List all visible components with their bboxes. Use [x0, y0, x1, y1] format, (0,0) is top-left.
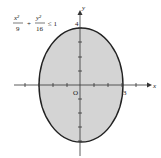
x-axis-arrow-icon	[147, 83, 152, 88]
ellipse-figure: y x O 3 4 x² 9 + y² 16 ≤ 1	[0, 0, 161, 158]
term1-denominator: 9	[16, 25, 20, 33]
plus-sign: +	[27, 20, 31, 28]
term2-numerator: y²	[35, 14, 42, 22]
x-intercept-label: 3	[123, 89, 127, 97]
y-intercept-label: 4	[75, 20, 79, 28]
term2-denominator: 16	[36, 25, 44, 33]
inequality-label: x² 9 + y² 16 ≤ 1	[13, 14, 58, 33]
term1-numerator: x²	[13, 14, 20, 22]
x-axis-label: x	[152, 82, 157, 90]
origin-label: O	[73, 89, 78, 97]
y-axis-label: y	[81, 4, 86, 12]
relation: ≤ 1	[48, 20, 58, 28]
